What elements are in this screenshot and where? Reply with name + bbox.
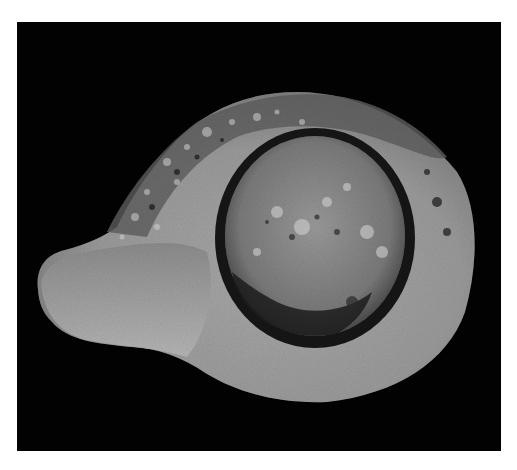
lamp-discus — [215, 128, 415, 348]
artifact-photo: Ancient oil lamp artifact, top view — [17, 22, 501, 451]
oil-lamp-illustration — [17, 22, 501, 451]
